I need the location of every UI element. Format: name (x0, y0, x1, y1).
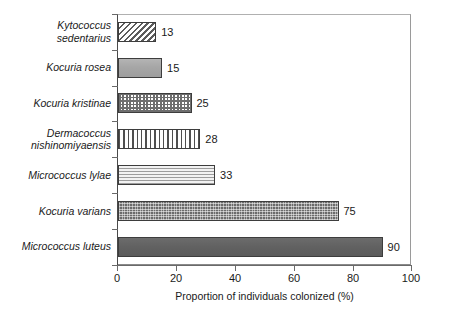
bar-dermacoccus-nishinomiyaensis (118, 129, 200, 149)
bar-value-label: 15 (167, 62, 179, 74)
bar-container: 13 (118, 22, 156, 42)
bar-kocuria-rosea (118, 58, 162, 78)
bar-row-kocuria-rosea: Kocuria rosea 15 (0, 50, 460, 86)
x-axis-tick-label: 100 (391, 272, 431, 284)
bar-kytococcus-sedentarius (118, 22, 156, 42)
category-label: Kytococcus sedentarius (0, 19, 111, 44)
bar-micrococcus-luteus (118, 237, 383, 257)
bar-container: 90 (118, 237, 383, 257)
bar-row-micrococcus-lylae: Micrococcus lylae 33 (0, 157, 460, 193)
x-axis-tick (176, 266, 177, 271)
category-label: Dermacoccus nishinomiyaensis (0, 127, 111, 152)
x-axis-tick (353, 266, 354, 271)
bar-row-kocuria-kristinae: Kocuria kristinae 25 (0, 86, 460, 122)
bar-row-kocuria-varians: Kocuria varians 75 (0, 193, 460, 229)
category-label: Kocuria varians (0, 205, 111, 217)
bar-micrococcus-lylae (118, 165, 215, 185)
bar-value-label: 33 (220, 169, 232, 181)
bar-kocuria-varians (118, 201, 339, 221)
bar-value-label: 75 (344, 205, 356, 217)
bar-container: 75 (118, 201, 339, 221)
bar-rows: Kytococcus sedentarius 13 Kocuria rosea … (0, 14, 460, 265)
bar-value-label: 25 (197, 97, 209, 109)
bar-container: 28 (118, 129, 200, 149)
bar-value-label: 90 (388, 241, 400, 253)
bar-container: 15 (118, 58, 162, 78)
x-axis-tick-label: 40 (215, 272, 255, 284)
x-axis-tick (294, 266, 295, 271)
x-axis-tick-label: 0 (97, 272, 137, 284)
bar-row-dermacoccus-nishinomiyaensis: Dermacoccus nishinomiyaensis 28 (0, 121, 460, 157)
x-axis-title: Proportion of individuals colonized (%) (117, 290, 412, 302)
category-label: Micrococcus luteus (0, 240, 111, 252)
category-label: Micrococcus lylae (0, 169, 111, 181)
x-axis-tick (235, 266, 236, 271)
bar-kocuria-kristinae (118, 93, 192, 113)
category-label: Kocuria kristinae (0, 97, 111, 109)
x-axis-tick-label: 80 (333, 272, 373, 284)
bar-container: 33 (118, 165, 215, 185)
x-axis-tick-label: 20 (156, 272, 196, 284)
bar-container: 25 (118, 93, 192, 113)
bar-chart-figure: Kytococcus sedentarius 13 Kocuria rosea … (0, 0, 460, 312)
x-axis-tick-label: 60 (274, 272, 314, 284)
x-axis-tick (411, 266, 412, 271)
bar-row-kytococcus-sedentarius: Kytococcus sedentarius 13 (0, 14, 460, 50)
bar-value-label: 13 (161, 26, 173, 38)
x-axis-line (117, 265, 412, 266)
bar-value-label: 28 (205, 133, 217, 145)
x-axis-tick (117, 266, 118, 271)
category-label: Kocuria rosea (0, 61, 111, 73)
bar-row-micrococcus-luteus: Micrococcus luteus 90 (0, 229, 460, 265)
